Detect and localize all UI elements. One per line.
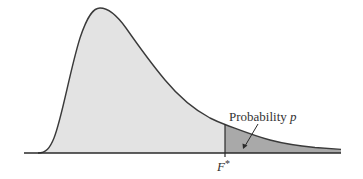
- f-distribution-diagram: Probability p F*: [0, 0, 363, 179]
- density-body-area: [38, 8, 225, 153]
- critical-value-label: F*: [216, 158, 230, 174]
- probability-label: Probability p: [229, 109, 297, 124]
